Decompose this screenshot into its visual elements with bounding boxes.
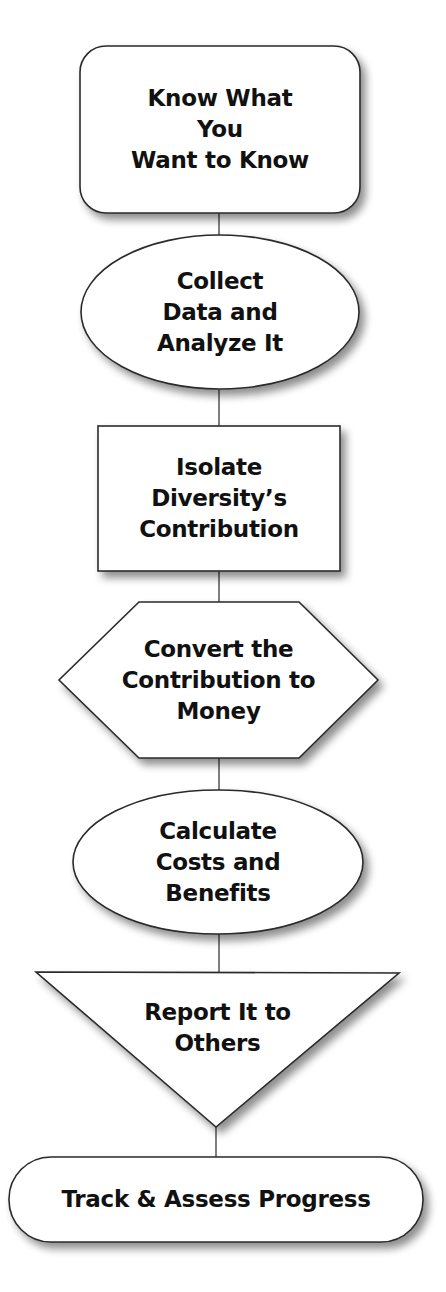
step2-line-1: Collect (177, 266, 264, 297)
step6-label: Report It to Others (36, 995, 399, 1061)
step3-label: Isolate Diversity’s Contribution (98, 426, 340, 571)
step6-line-1: Report It to (144, 997, 291, 1028)
step3-line-2: Diversity’s (151, 483, 287, 514)
step5-line-1: Calculate (159, 816, 277, 847)
step5-line-3: Benefits (165, 878, 270, 909)
step5-line-2: Costs and (156, 847, 281, 878)
step7-line-1: Track & Assess Progress (61, 1184, 370, 1215)
step3-line-1: Isolate (176, 452, 262, 483)
step4-line-2: Contribution to (122, 665, 315, 696)
step1-line-1: Know What (148, 83, 293, 114)
step6-line-2: Others (175, 1028, 261, 1059)
step1-label: Know What You Want to Know (80, 46, 360, 213)
step7-label: Track & Assess Progress (9, 1157, 423, 1242)
step4-line-3: Money (176, 696, 260, 727)
step2-label: Collect Data and Analyze It (81, 235, 359, 390)
step4-line-1: Convert the (144, 634, 294, 665)
step2-line-2: Data and (162, 297, 277, 328)
step1-line-3: Want to Know (131, 145, 309, 176)
step1-line-2: You (197, 114, 243, 145)
step2-line-3: Analyze It (157, 328, 283, 359)
step4-label: Convert the Contribution to Money (59, 602, 378, 758)
step5-label: Calculate Costs and Benefits (73, 790, 363, 934)
step3-line-3: Contribution (139, 514, 299, 545)
